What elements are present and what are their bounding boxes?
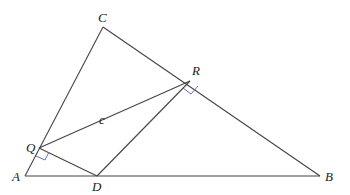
right-angle-mark-q <box>36 152 49 160</box>
label-q-vertex: Q <box>26 141 35 154</box>
label-d-vertex: D <box>92 180 101 193</box>
label-a-vertex: A <box>12 170 20 183</box>
segment-ac <box>25 27 103 176</box>
label-c-vertex: C <box>98 11 107 24</box>
geometry-diagram: C R Q A D B c <box>0 0 350 195</box>
label-b-vertex: B <box>325 170 333 183</box>
segment-cb <box>103 27 320 176</box>
segment-qd <box>39 148 97 176</box>
label-segment-c: c <box>99 113 105 126</box>
segment-dr <box>97 81 190 176</box>
diagram-svg <box>0 0 350 195</box>
segment-qr <box>39 81 190 148</box>
label-r-vertex: R <box>192 64 200 77</box>
